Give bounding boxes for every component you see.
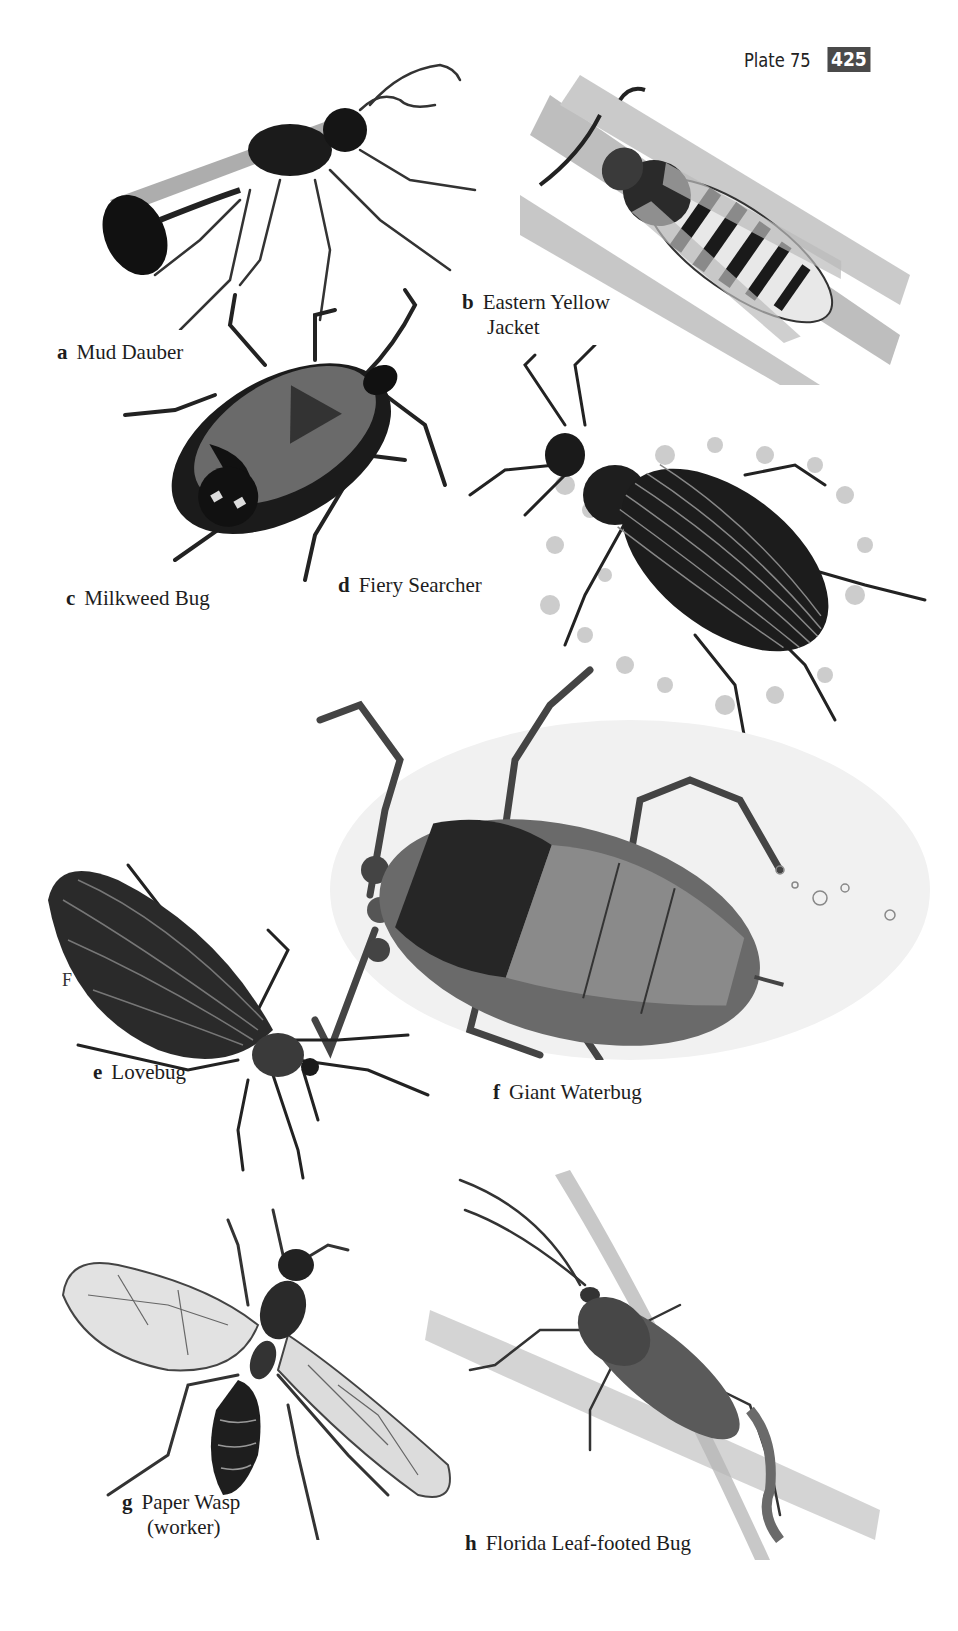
caption-name: Florida Leaf-footed Bug [486, 1531, 691, 1555]
caption-d: dFiery Searcher [338, 573, 482, 598]
caption-letter: b [462, 290, 474, 314]
margin-mark: F [62, 970, 72, 991]
caption-name: Paper Wasp [142, 1490, 241, 1514]
caption-name: Eastern Yellow [483, 290, 610, 314]
caption-name: Milkweed Bug [84, 586, 209, 610]
caption-e: eLovebug [93, 1060, 186, 1085]
caption-g: gPaper Wasp (worker) [122, 1490, 240, 1540]
caption-c: cMilkweed Bug [66, 586, 210, 611]
plate-label: Plate 75 [743, 49, 810, 71]
caption-name-line2: Jacket [462, 315, 610, 340]
lovebug-illustration [38, 860, 438, 1180]
caption-letter: a [57, 340, 68, 364]
milkweed-bug-illustration [115, 285, 460, 585]
page-number-badge: 425 [828, 47, 871, 72]
caption-name: Lovebug [111, 1060, 186, 1084]
caption-f: fGiant Waterbug [493, 1080, 642, 1105]
leaf-footed-bug-illustration [420, 1170, 890, 1560]
caption-b: bEastern Yellow Jacket [462, 290, 610, 340]
caption-letter: g [122, 1490, 133, 1514]
caption-h: hFlorida Leaf-footed Bug [465, 1531, 691, 1556]
caption-letter: h [465, 1531, 477, 1555]
caption-name: Giant Waterbug [509, 1080, 642, 1104]
caption-name-line2: (worker) [122, 1515, 240, 1540]
caption-name: Fiery Searcher [359, 573, 482, 597]
caption-letter: c [66, 586, 75, 610]
caption-letter: f [493, 1080, 500, 1104]
paper-wasp-illustration [58, 1195, 458, 1540]
page-header: Plate 75 425 [733, 47, 875, 72]
caption-letter: e [93, 1060, 102, 1084]
caption-letter: d [338, 573, 350, 597]
field-guide-page: Plate 75 425 aMud Dauber [0, 0, 958, 1631]
